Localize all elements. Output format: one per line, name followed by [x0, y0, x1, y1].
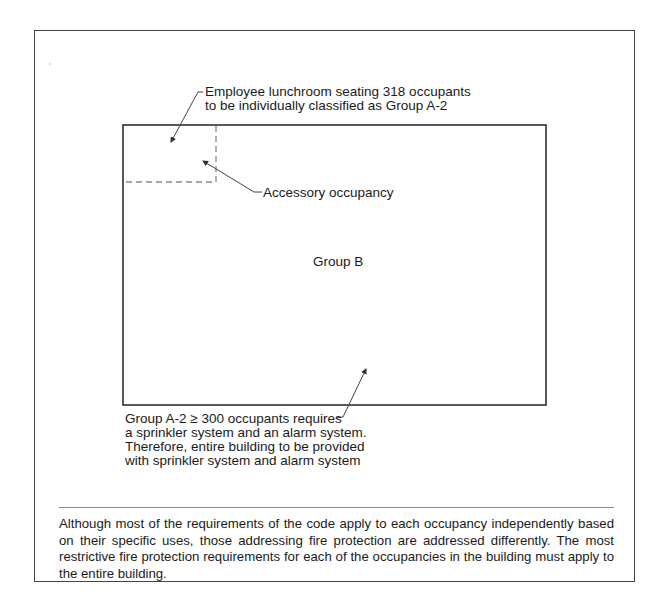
caption-divider — [59, 507, 614, 508]
lunchroom-callout-line1: Employee lunchroom seating 318 occupants — [205, 85, 471, 99]
requirement-callout-line1: Group A-2 ≥ 300 occupants requires — [125, 412, 367, 426]
requirement-callout-line2: a sprinkler system and an alarm system. — [125, 426, 367, 440]
accessory-area-dashed — [124, 126, 216, 182]
requirement-callout-line3: Therefore, entire building to be provide… — [125, 440, 367, 454]
lunchroom-callout-line2: to be individually classified as Group A… — [205, 99, 471, 113]
group-b-label: Group B — [313, 255, 363, 269]
lunchroom-leader-arrow — [171, 92, 203, 142]
accessory-occupancy-label: Accessory occupancy — [263, 186, 394, 200]
figure-caption: Although most of the requirements of the… — [59, 516, 614, 582]
lunchroom-callout: Employee lunchroom seating 318 occupants… — [205, 85, 471, 113]
accessory-leader-arrow — [203, 161, 262, 192]
requirement-callout: Group A-2 ≥ 300 occupants requires a spr… — [125, 412, 367, 468]
requirement-callout-line4: with sprinkler system and alarm system — [125, 454, 367, 468]
